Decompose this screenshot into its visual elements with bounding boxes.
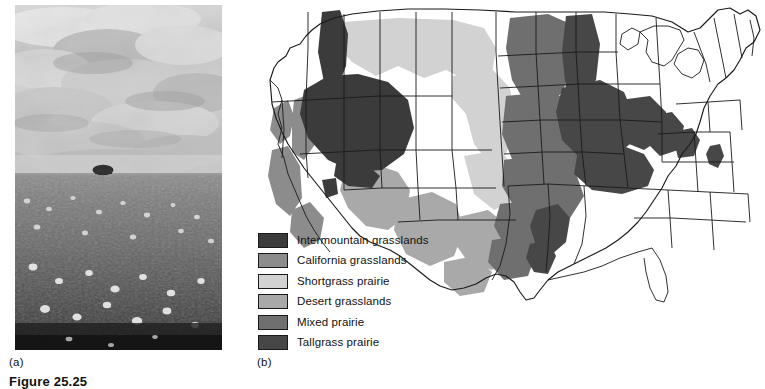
region-tallgrass-prairie-3 [574,144,654,194]
figure-caption: Figure 25.25 [9,374,87,389]
legend-item-intermountain-grasslands: Intermountain grasslands [258,230,508,251]
panel-letter-b: (b) [257,356,272,368]
prairie-photograph-panel [15,5,222,350]
legend-item-desert-grasslands: Desert grasslands [258,292,508,313]
legend-label-california-grasslands: California grasslands [297,255,407,267]
legend-item-shortgrass-prairie: Shortgrass prairie [258,271,508,292]
legend-item-california-grasslands: California grasslands [258,251,508,272]
legend-label-tallgrass-prairie: Tallgrass prairie [297,337,379,349]
legend-label-mixed-prairie: Mixed prairie [297,317,364,329]
legend-swatch-california-grasslands [258,253,288,268]
prairie-photograph-image [15,5,222,350]
legend-item-mixed-prairie: Mixed prairie [258,312,508,333]
legend-swatch-mixed-prairie [258,315,288,330]
region-intermountain-grasslands-4 [322,178,338,198]
panel-letter-a: (a) [9,356,24,368]
legend-label-desert-grasslands: Desert grasslands [297,296,391,308]
region-tallgrass-prairie-outlier [706,144,724,168]
legend-label-shortgrass-prairie: Shortgrass prairie [297,276,390,288]
legend-swatch-desert-grasslands [258,294,288,309]
grassland-map-panel: Intermountain grasslands California gras… [248,4,765,356]
map-legend: Intermountain grasslands California gras… [258,230,508,353]
region-intermountain-grasslands-2 [300,74,414,172]
legend-label-intermountain-grasslands: Intermountain grasslands [297,235,429,247]
legend-swatch-intermountain-grasslands [258,233,288,248]
legend-swatch-tallgrass-prairie [258,335,288,350]
photograph-frame [15,5,222,350]
legend-swatch-shortgrass-prairie [258,274,288,289]
legend-item-tallgrass-prairie: Tallgrass prairie [258,333,508,354]
region-intermountain-grasslands [318,10,348,86]
